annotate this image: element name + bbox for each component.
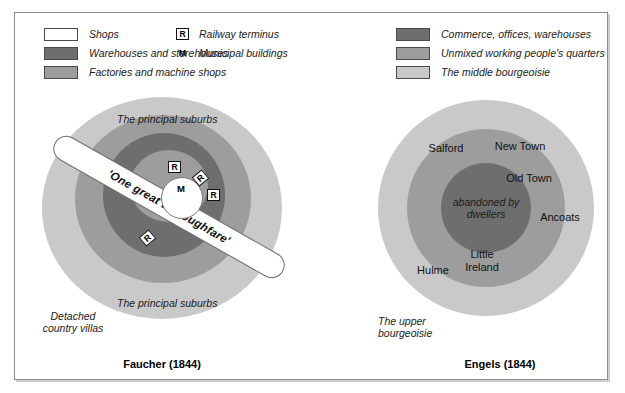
legend-label-shops: Shops (89, 28, 119, 41)
abandoned-line-1: abandoned by (453, 196, 520, 208)
place-new-town: New Town (490, 140, 550, 153)
label-principal-suburbs-bottom: The principal suburbs (117, 297, 217, 309)
railway-terminus-marker: R (207, 189, 220, 201)
legend-label-railway-terminus: Railway terminus (199, 28, 279, 40)
legend-label-middle-bourgeoisie: The middle bourgeoisie (441, 66, 550, 79)
railway-terminus-icon: R (176, 28, 189, 40)
legend-swatch-shops (44, 28, 78, 41)
label-upper-bourgeoisie: The upper bourgeoisie (378, 315, 448, 339)
municipal-buildings-icon: M (176, 47, 189, 59)
legend-item-middle-bourgeoisie: The middle bourgeoisie (396, 65, 605, 80)
abandoned-line-2: dwellers (467, 208, 506, 220)
little-ireland-line-1: Little (470, 248, 493, 260)
legend-engels: Commerce, offices, warehouses Unmixed wo… (396, 27, 605, 84)
upper-bourgeoisie-line-1: The upper (378, 315, 426, 327)
villas-line-2: country villas (43, 322, 104, 334)
faucher-caption: Faucher (1844) (102, 358, 222, 370)
place-ancoats: Ancoats (533, 211, 587, 224)
place-hulme: Hulme (411, 264, 455, 277)
legend-label-municipal-buildings: Municipal buildings (199, 47, 288, 59)
legend-item-commerce: Commerce, offices, warehouses (396, 27, 605, 42)
upper-bourgeoisie-line-2: bourgeoisie (378, 327, 432, 339)
place-little-ireland: Little Ireland (455, 248, 509, 273)
legend-markers: R Railway terminus M Municipal buildings (176, 27, 288, 65)
villas-line-1: Detached (51, 310, 96, 322)
place-old-town: Old Town (501, 172, 557, 185)
legend-label-factories: Factories and machine shops (89, 66, 226, 79)
label-principal-suburbs-top: The principal suburbs (117, 113, 217, 125)
legend-label-commerce: Commerce, offices, warehouses (441, 28, 591, 41)
legend-swatch-working-quarters (396, 47, 430, 60)
legend-swatch-warehouses (44, 47, 78, 60)
legend-swatch-middle-bourgeoisie (396, 66, 430, 79)
place-salford: Salford (422, 142, 470, 155)
legend-item-factories: Factories and machine shops (44, 65, 228, 80)
label-abandoned-by-dwellers: abandoned by dwellers (446, 196, 526, 220)
legend-swatch-factories (44, 66, 78, 79)
legend-swatch-commerce (396, 28, 430, 41)
legend-item-municipal-buildings: M Municipal buildings (176, 46, 288, 60)
legend-item-working-quarters: Unmixed working people's quarters (396, 46, 605, 61)
legend-label-working-quarters: Unmixed working people's quarters (441, 47, 605, 60)
figure-root: Shops Warehouses and storehouses Factori… (0, 0, 625, 393)
railway-terminus-marker: R (168, 161, 181, 173)
legend-item-railway-terminus: R Railway terminus (176, 27, 288, 41)
label-detached-country-villas: Detached country villas (31, 310, 115, 334)
little-ireland-line-2: Ireland (465, 261, 499, 273)
engels-caption: Engels (1844) (440, 358, 560, 370)
